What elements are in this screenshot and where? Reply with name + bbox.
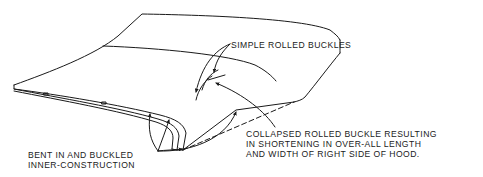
buckle-line-2 [202,70,218,90]
hood-right-edge [294,53,340,102]
label-bent-in-and-buckled: BENT IN AND BUCKLED INNER-CONSTRUCTION [28,150,135,170]
label-collapsed-line-3: AND WIDTH OF RIGHT SIDE OF HOOD. [246,149,437,159]
label-collapsed-line-1: COLLAPSED ROLLED BUCKLE RESULTING [246,129,437,139]
label-simple-rolled-buckles: SIMPLE ROLLED BUCKLES [231,40,351,50]
label-collapsed-rolled-buckle: COLLAPSED ROLLED BUCKLE RESULTING IN SHO… [246,129,437,160]
hood-front-edge-inner [14,89,179,150]
label-collapsed-line-2: IN SHORTENING IN OVER-ALL LENGTH [246,139,437,149]
label-bent-line-2: INNER-CONSTRUCTION [28,160,135,170]
hood-crease-line [103,46,276,81]
hood-front-edge-top [14,85,186,150]
label-simple-rolled-buckles-text: SIMPLE ROLLED BUCKLES [231,40,351,50]
label-bent-line-1: BENT IN AND BUCKLED [28,150,135,160]
